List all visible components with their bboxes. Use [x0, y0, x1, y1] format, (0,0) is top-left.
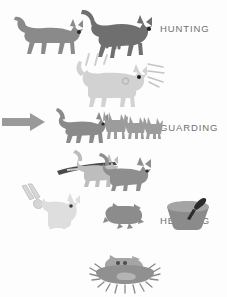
dog-in-basket-icon [88, 250, 162, 294]
motion-lines-icon [82, 52, 116, 68]
arrow-right-icon [2, 112, 46, 132]
sound-lines-icon [147, 62, 167, 88]
bowl-with-spoon-icon [165, 197, 213, 231]
dog-domestication-infographic: HUNTING [0, 0, 227, 297]
row-herding: HERDING [0, 100, 227, 148]
label-hunting: HUNTING [160, 23, 210, 34]
wolf-running-icon [14, 12, 86, 56]
row-food: FOOD [0, 192, 227, 246]
row-pet: PET [0, 248, 227, 297]
row-guarding: GUARDING [0, 52, 227, 106]
sheep-icon [142, 116, 164, 140]
row-hunting: HUNTING [0, 0, 227, 58]
